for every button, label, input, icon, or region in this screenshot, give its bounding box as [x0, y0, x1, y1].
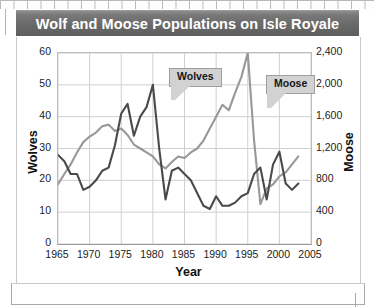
callout-tail-wolves [171, 85, 191, 100]
y-tick-left: 50 [19, 77, 51, 89]
page-border-tick [355, 293, 356, 307]
chart-card: Wolves Moose Year 0102030405060 04008001… [16, 37, 361, 284]
legend-label-wolves: Wolves [169, 68, 222, 87]
legend-callout-moose: Moose [266, 75, 315, 94]
y-tick-right: 1,600 [316, 109, 342, 121]
page-border-frame [11, 283, 365, 305]
y-tick-right: 400 [316, 204, 334, 216]
y-tick-left: 10 [19, 204, 51, 216]
y-tick-right: 800 [316, 172, 334, 184]
page-canvas: Wolf and Moose Populations on Isle Royal… [0, 0, 374, 307]
y-tick-left: 20 [19, 172, 51, 184]
y-tick-right: 0 [316, 236, 322, 248]
legend-callout-wolves: Wolves [169, 68, 222, 87]
callout-tail-moose [267, 92, 287, 108]
chart-title-bar: Wolf and Moose Populations on Isle Royal… [16, 10, 359, 36]
graph-paper-texture [0, 0, 374, 9]
paper-edge-rule [5, 9, 6, 35]
x-tick: 2005 [290, 248, 330, 260]
wolves-line [58, 85, 298, 209]
y-tick-right: 2,400 [316, 45, 342, 57]
y-tick-left: 60 [19, 45, 51, 57]
chart-title: Wolf and Moose Populations on Isle Royal… [36, 16, 340, 32]
y-tick-right: 1,200 [316, 141, 342, 153]
y-tick-left: 40 [19, 109, 51, 121]
y-tick-left: 30 [19, 141, 51, 153]
plot-wrapper: Wolves Moose Year 0102030405060 04008001… [17, 37, 360, 283]
legend-label-moose: Moose [266, 75, 315, 94]
y-axis-title-right: Moose [342, 132, 356, 172]
y-tick-right: 2,000 [316, 77, 342, 89]
y-tick-left: 0 [19, 236, 51, 248]
x-axis-title: Year [17, 265, 360, 279]
